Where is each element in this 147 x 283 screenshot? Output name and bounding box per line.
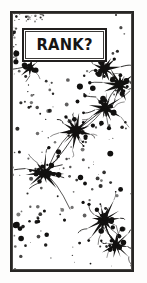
caption-box: RANK? xyxy=(22,28,107,62)
caption-label: RANK? xyxy=(36,37,92,53)
comic-panel: RANK? xyxy=(0,0,147,283)
